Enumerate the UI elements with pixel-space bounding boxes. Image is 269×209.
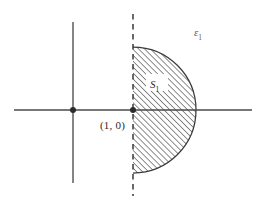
math-figure-canvas: S1 (1, 0) ε1 — [0, 0, 269, 209]
figure-container: S1 (1, 0) ε1 — [0, 0, 269, 209]
origin-point-marker — [70, 107, 76, 113]
region-label-subscript: 1 — [156, 85, 160, 94]
point-1-0-marker — [130, 107, 136, 113]
point-coordinate-label: (1, 0) — [100, 119, 125, 132]
outer-label-subscript: 1 — [198, 33, 202, 42]
